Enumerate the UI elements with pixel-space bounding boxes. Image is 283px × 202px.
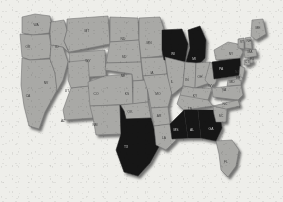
state-label-ga: GA: [209, 127, 215, 131]
us-states-map[interactable]: WashingtonOregonCaliforniaNevadaIdahoMon…: [0, 0, 283, 202]
state-label-oh: OH: [198, 75, 204, 79]
state-label-tn: TN: [188, 107, 193, 111]
state-nm[interactable]: New Mexico: [90, 105, 121, 135]
state-label-mo: MO: [155, 92, 161, 96]
state-in[interactable]: Indiana: [183, 62, 196, 88]
state-label-wv: WV: [208, 84, 214, 88]
state-label-nd: ND: [121, 37, 126, 41]
state-label-ms: MS: [174, 128, 180, 132]
state-ut[interactable]: Utah: [68, 60, 90, 88]
state-va[interactable]: Virginia: [212, 85, 243, 100]
state-label-wi: WI: [171, 52, 175, 56]
state-label-nm: NM: [92, 123, 97, 127]
state-label-wa: WA: [33, 23, 39, 27]
state-label-ct: CT: [245, 60, 249, 64]
state-label-ri: RI: [250, 57, 253, 61]
us-map-figure: WashingtonOregonCaliforniaNevadaIdahoMon…: [0, 0, 283, 202]
state-label-md: MD: [229, 80, 235, 84]
state-label-sc: SC: [219, 114, 224, 118]
state-label-mt: MT: [85, 29, 90, 33]
state-label-al: AL: [190, 128, 194, 132]
state-ia[interactable]: Iowa: [141, 57, 167, 76]
state-label-wy: WY: [85, 59, 91, 63]
state-label-il: IL: [171, 80, 174, 84]
state-mn[interactable]: Minnesota: [139, 17, 164, 58]
state-co[interactable]: Colorado: [88, 74, 133, 106]
state-label-co: CO: [94, 92, 99, 96]
state-label-me: ME: [256, 26, 262, 30]
state-label-ma: MA: [248, 50, 254, 54]
state-label-nj: NJ: [235, 70, 239, 74]
state-label-ca: CA: [26, 94, 31, 98]
state-label-ny: NY: [229, 52, 234, 56]
state-label-ar: AR: [157, 114, 162, 118]
state-label-ut: UT: [65, 89, 69, 93]
state-label-nv: NV: [44, 81, 49, 85]
state-mt[interactable]: Montana: [64, 16, 110, 52]
state-label-nc: NC: [223, 102, 228, 106]
state-label-or: OR: [26, 45, 32, 49]
state-label-fl: FL: [224, 160, 228, 164]
state-label-az: AZ: [61, 119, 65, 123]
state-label-vt: VT: [240, 40, 244, 44]
state-label-nh: NH: [247, 39, 252, 43]
state-label-ne: NE: [121, 74, 126, 78]
state-label-ok: OK: [128, 110, 134, 114]
state-label-mi: MI: [192, 57, 196, 61]
states-layer: WashingtonOregonCaliforniaNevadaIdahoMon…: [20, 14, 266, 177]
state-label-mn: MN: [146, 41, 152, 45]
state-fl[interactable]: Florida: [216, 140, 239, 177]
state-label-sd: SD: [122, 55, 127, 59]
state-label-de: DE: [236, 76, 241, 80]
state-sd[interactable]: South Dakota: [106, 40, 141, 63]
